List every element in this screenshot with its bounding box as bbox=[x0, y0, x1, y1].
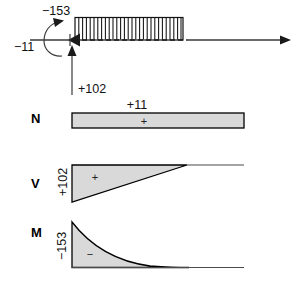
n-sign-label: + bbox=[141, 115, 147, 127]
v-value-label: +102 bbox=[56, 168, 70, 196]
v-diagram-shape bbox=[72, 165, 187, 202]
shear-force-diagram: V +102 + bbox=[31, 165, 244, 202]
axial-value-label: −11 bbox=[14, 40, 34, 54]
m-diagram-shape bbox=[72, 222, 189, 268]
diagram-row-label-m: M bbox=[31, 225, 42, 240]
diagram-svg: −153 −11 +102 N +11 + V +102 + M −153 bbox=[0, 0, 295, 289]
n-value-label: +11 bbox=[127, 98, 147, 112]
moment-arrow-head-icon bbox=[53, 18, 64, 27]
distributed-load-box bbox=[75, 18, 183, 41]
diagram-row-label-v: V bbox=[31, 176, 40, 191]
reaction-arrow-head-icon bbox=[68, 45, 77, 56]
distributed-load-hatching-icon bbox=[79, 18, 181, 40]
moment-arc-icon bbox=[44, 22, 62, 56]
n-diagram-shape bbox=[72, 113, 244, 128]
reaction-value-label: +102 bbox=[78, 82, 106, 96]
v-sign-label: + bbox=[92, 171, 98, 183]
m-value-label: −153 bbox=[55, 232, 69, 260]
diagram-row-label-n: N bbox=[31, 111, 40, 126]
normal-force-diagram: N +11 + bbox=[31, 98, 244, 128]
beam-axis-arrow-icon bbox=[280, 36, 291, 45]
moment-value-label: −153 bbox=[42, 4, 70, 18]
loading-diagram: −153 −11 +102 bbox=[14, 4, 291, 96]
bending-moment-diagram: M −153 − bbox=[31, 222, 244, 268]
m-sign-label: − bbox=[87, 248, 93, 260]
figure-canvas: −153 −11 +102 N +11 + V +102 + M −153 bbox=[0, 0, 295, 289]
